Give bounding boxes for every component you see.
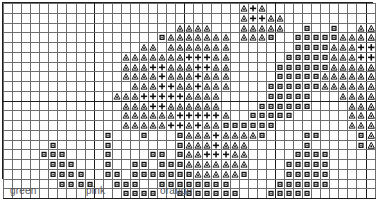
- grid-cell[interactable]: [194, 91, 203, 101]
- grid-cell[interactable]: [4, 160, 13, 170]
- grid-cell[interactable]: [221, 121, 230, 131]
- grid-cell[interactable]: [130, 33, 139, 43]
- grid-cell[interactable]: [203, 82, 212, 92]
- grid-cell[interactable]: [357, 43, 366, 53]
- grid-cell[interactable]: [67, 33, 76, 43]
- grid-cell[interactable]: [4, 121, 13, 131]
- grid-cell[interactable]: [139, 62, 148, 72]
- grid-cell[interactable]: [230, 121, 239, 131]
- grid-cell[interactable]: [239, 23, 248, 33]
- grid-cell[interactable]: [4, 91, 13, 101]
- grid-cell[interactable]: [230, 111, 239, 121]
- grid-cell[interactable]: [366, 4, 376, 14]
- grid-cell[interactable]: [158, 43, 167, 53]
- grid-cell[interactable]: [284, 52, 293, 62]
- grid-cell[interactable]: [248, 33, 257, 43]
- grid-cell[interactable]: [294, 169, 303, 179]
- grid-cell[interactable]: [185, 62, 194, 72]
- grid-cell[interactable]: [321, 160, 330, 170]
- grid-cell[interactable]: [339, 72, 348, 82]
- grid-cell[interactable]: [4, 33, 13, 43]
- grid-cell[interactable]: [194, 62, 203, 72]
- grid-cell[interactable]: [212, 101, 221, 111]
- grid-cell[interactable]: [130, 82, 139, 92]
- grid-cell[interactable]: [239, 82, 248, 92]
- grid-cell[interactable]: [40, 82, 49, 92]
- grid-cell[interactable]: [31, 52, 40, 62]
- grid-cell[interactable]: [248, 150, 257, 160]
- grid-cell[interactable]: [239, 160, 248, 170]
- grid-cell[interactable]: [185, 33, 194, 43]
- grid-cell[interactable]: [230, 72, 239, 82]
- grid-cell[interactable]: [339, 43, 348, 53]
- grid-cell[interactable]: [40, 4, 49, 14]
- grid-cell[interactable]: [230, 130, 239, 140]
- grid-cell[interactable]: [31, 91, 40, 101]
- grid-cell[interactable]: [176, 160, 185, 170]
- grid-cell[interactable]: [4, 130, 13, 140]
- grid-cell[interactable]: [58, 101, 67, 111]
- grid-cell[interactable]: [330, 160, 339, 170]
- grid-cell[interactable]: [94, 62, 103, 72]
- grid-cell[interactable]: [22, 82, 31, 92]
- grid-cell[interactable]: [357, 62, 366, 72]
- grid-cell[interactable]: [67, 160, 76, 170]
- grid-cell[interactable]: [112, 52, 121, 62]
- grid-cell[interactable]: [321, 140, 330, 150]
- grid-cell[interactable]: [139, 121, 148, 131]
- grid-cell[interactable]: [13, 140, 22, 150]
- grid-cell[interactable]: [330, 62, 339, 72]
- grid-cell[interactable]: [31, 23, 40, 33]
- grid-cell[interactable]: [94, 121, 103, 131]
- grid-cell[interactable]: [85, 160, 94, 170]
- grid-cell[interactable]: [112, 121, 121, 131]
- grid-cell[interactable]: [121, 52, 130, 62]
- grid-cell[interactable]: [130, 130, 139, 140]
- grid-cell[interactable]: [112, 150, 121, 160]
- grid-cell[interactable]: [312, 169, 321, 179]
- grid-cell[interactable]: [239, 4, 248, 14]
- grid-cell[interactable]: [284, 72, 293, 82]
- grid-cell[interactable]: [266, 13, 275, 23]
- grid-cell[interactable]: [221, 33, 230, 43]
- grid-cell[interactable]: [49, 62, 58, 72]
- grid-cell[interactable]: [4, 169, 13, 179]
- grid-cell[interactable]: [275, 72, 284, 82]
- grid-cell[interactable]: [85, 130, 94, 140]
- grid-cell[interactable]: [266, 62, 275, 72]
- grid-cell[interactable]: [284, 4, 293, 14]
- grid-cell[interactable]: [22, 130, 31, 140]
- grid-cell[interactable]: [257, 130, 266, 140]
- grid-cell[interactable]: [176, 43, 185, 53]
- grid-cell[interactable]: [312, 13, 321, 23]
- grid-cell[interactable]: [13, 169, 22, 179]
- grid-cell[interactable]: [31, 13, 40, 23]
- grid-cell[interactable]: [221, 111, 230, 121]
- grid-cell[interactable]: [212, 52, 221, 62]
- grid-cell[interactable]: [139, 13, 148, 23]
- grid-cell[interactable]: [348, 111, 357, 121]
- grid-cell[interactable]: [312, 82, 321, 92]
- grid-cell[interactable]: [158, 160, 167, 170]
- grid-cell[interactable]: [284, 169, 293, 179]
- grid-cell[interactable]: [221, 169, 230, 179]
- grid-cell[interactable]: [366, 121, 376, 131]
- grid-cell[interactable]: [312, 130, 321, 140]
- grid-cell[interactable]: [149, 72, 158, 82]
- grid-cell[interactable]: [294, 91, 303, 101]
- grid-cell[interactable]: [76, 33, 85, 43]
- grid-cell[interactable]: [330, 130, 339, 140]
- grid-cell[interactable]: [366, 33, 376, 43]
- grid-cell[interactable]: [67, 140, 76, 150]
- grid-cell[interactable]: [130, 62, 139, 72]
- grid-cell[interactable]: [40, 121, 49, 131]
- grid-cell[interactable]: [275, 4, 284, 14]
- grid-cell[interactable]: [212, 91, 221, 101]
- grid-cell[interactable]: [185, 52, 194, 62]
- grid-cell[interactable]: [85, 150, 94, 160]
- grid-cell[interactable]: [121, 169, 130, 179]
- grid-cell[interactable]: [275, 23, 284, 33]
- grid-cell[interactable]: [49, 130, 58, 140]
- grid-cell[interactable]: [103, 52, 112, 62]
- grid-cell[interactable]: [139, 52, 148, 62]
